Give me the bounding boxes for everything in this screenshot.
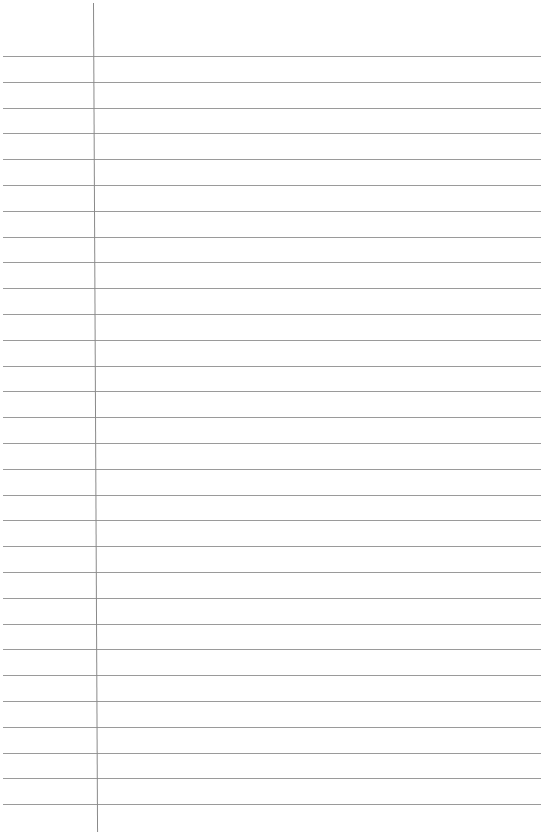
ruled-line (3, 366, 541, 367)
ruled-line (3, 572, 541, 573)
ruled-line (3, 211, 541, 212)
ruled-line (3, 624, 541, 625)
ruled-line (3, 288, 541, 289)
ruled-line (3, 804, 541, 805)
ruled-line (3, 443, 541, 444)
ruled-line (3, 56, 541, 57)
ruled-line (3, 417, 541, 418)
ruled-line (3, 727, 541, 728)
ruled-line (3, 185, 541, 186)
ruled-line (3, 701, 541, 702)
ruled-line (3, 133, 541, 134)
ruled-line (3, 469, 541, 470)
ruled-line (3, 598, 541, 599)
ruled-line (3, 753, 541, 754)
ruled-line (3, 262, 541, 263)
lined-paper-page (0, 0, 544, 835)
ruled-line (3, 82, 541, 83)
ruled-line (3, 649, 541, 650)
ruled-line (3, 778, 541, 779)
ruled-line (3, 237, 541, 238)
ruled-line (3, 108, 541, 109)
ruled-line (3, 340, 541, 341)
ruled-line (3, 495, 541, 496)
ruled-line (3, 675, 541, 676)
ruled-line (3, 314, 541, 315)
ruled-line (3, 520, 541, 521)
ruled-line (3, 546, 541, 547)
ruled-line (3, 159, 541, 160)
ruled-line (3, 391, 541, 392)
